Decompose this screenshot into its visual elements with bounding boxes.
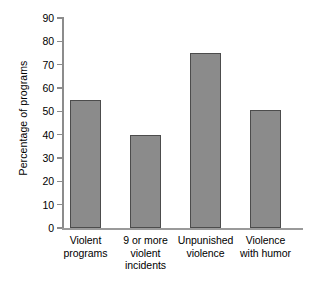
y-tick-label: 20	[14, 176, 54, 186]
x-axis-line	[62, 228, 303, 230]
y-tick-label: 90	[14, 13, 54, 23]
y-tick-label: 80	[14, 36, 54, 46]
x-tick-label: Violence with humor	[226, 234, 306, 259]
y-tick-label: 10	[14, 200, 54, 210]
y-tick-label: 0	[14, 223, 54, 233]
plot-area	[63, 18, 300, 228]
y-tick-label: 60	[14, 83, 54, 93]
bar-chart: Percentage of programs 01020304050607080…	[0, 0, 309, 285]
y-tick-mark	[57, 17, 62, 19]
y-tick-label: 30	[14, 153, 54, 163]
bar	[70, 100, 101, 228]
y-tick-mark	[57, 227, 62, 229]
y-tick-label: 50	[14, 106, 54, 116]
y-tick-label: 40	[14, 130, 54, 140]
y-tick-mark	[57, 111, 62, 113]
y-tick-mark	[57, 181, 62, 183]
y-tick-mark	[57, 64, 62, 66]
bar	[250, 110, 281, 228]
y-tick-mark	[57, 134, 62, 136]
y-tick-label: 70	[14, 60, 54, 70]
y-tick-mark	[57, 204, 62, 206]
bar	[190, 53, 221, 228]
y-tick-mark	[57, 41, 62, 43]
y-tick-mark	[57, 87, 62, 89]
y-tick-mark	[57, 157, 62, 159]
bar	[130, 135, 161, 228]
